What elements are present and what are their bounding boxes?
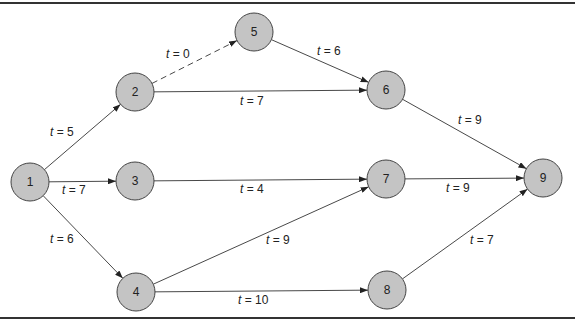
node-label: 1 [27,175,34,189]
node-label: 6 [383,83,390,97]
edge-2-6 [154,90,367,92]
nodes-layer: 123456789 [11,13,562,311]
node-7: 7 [367,160,405,198]
node-9: 9 [524,159,562,197]
node-label: 8 [384,283,391,297]
node-1: 1 [11,163,49,201]
node-label: 3 [132,174,139,188]
edge-7-9 [405,178,524,179]
edge-duration-label: t = 9 [266,233,290,247]
edge-duration-label: t = 6 [317,44,341,58]
edge-duration-label: t = 4 [240,182,264,196]
edge-duration-label: t = 7 [470,233,494,247]
node-4: 4 [117,273,155,311]
node-label: 5 [251,25,258,39]
edge-duration-label: t = 6 [50,232,74,246]
edge-4-8 [155,290,368,292]
edge-3-7 [154,179,367,181]
edge-duration-label: t = 9 [458,113,482,127]
edge-2-5 [152,41,237,84]
edges-layer [43,40,527,292]
node-8: 8 [368,271,406,309]
edge-duration-label: t = 7 [62,183,86,197]
node-5: 5 [235,13,273,51]
node-3: 3 [116,162,154,200]
network-diagram: 123456789 t = 5t = 7t = 6t = 0t = 7t = 6… [0,0,575,321]
edge-duration-label: t = 7 [240,94,264,108]
node-6: 6 [367,71,405,109]
edge-8-9 [402,189,527,279]
node-label: 7 [383,172,390,186]
node-label: 2 [132,85,139,99]
node-2: 2 [116,73,154,111]
edge-duration-label: t = 5 [50,125,74,139]
edge-4-7 [153,187,368,284]
edge-duration-label: t = 9 [446,181,470,195]
node-label: 4 [133,285,140,299]
edge-6-9 [403,99,527,168]
node-label: 9 [540,171,547,185]
edge-1-3 [49,181,116,182]
edge-duration-label: t = 10 [238,293,269,307]
edge-duration-label: t = 0 [166,47,190,61]
